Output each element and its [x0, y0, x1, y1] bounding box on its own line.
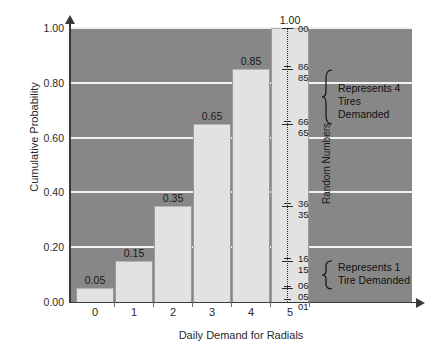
x-tick-label-0: 0 — [75, 306, 115, 318]
bar-value-label-3: 0.65 — [189, 110, 235, 122]
bar-demand-0 — [76, 288, 114, 302]
rn-tick-16 — [284, 258, 291, 259]
y-tick-label-0.20: 0.20 — [22, 241, 64, 253]
callout-represents-1: Represents 1 Tire Demanded — [338, 261, 410, 287]
y-tick-label-1.00: 1.00 — [22, 22, 64, 34]
rn-label-15: 15 — [298, 265, 309, 275]
x-tick-label-1: 1 — [114, 306, 154, 318]
y-axis-title: Cumulative Probability — [28, 42, 40, 232]
x-axis-arrow-icon — [416, 298, 425, 308]
cumulative-probability-chart: 0.05 0.15 0.35 0.65 0.85 1.00 00 86 85 6… — [0, 0, 437, 354]
rn-tick-35 — [282, 206, 293, 207]
gridline-1.00 — [70, 27, 412, 29]
rn-tick-85 — [282, 69, 293, 70]
rn-label-06: 06 — [298, 281, 309, 291]
y-axis-line — [69, 22, 71, 303]
x-axis-line — [69, 302, 418, 304]
brace-represents-4 — [322, 69, 334, 125]
rn-tick-00 — [282, 28, 293, 29]
rn-tick-36 — [284, 203, 291, 204]
rn-label-36: 36 — [298, 199, 309, 209]
x-axis-title: Daily Demand for Radials — [70, 329, 412, 341]
rn-label-85: 85 — [298, 73, 309, 83]
brace-represents-1 — [322, 260, 334, 290]
x-tick-label-2: 2 — [153, 306, 193, 318]
rn-tick-06 — [284, 286, 291, 287]
bar-demand-1 — [115, 261, 153, 302]
rn-label-00: 00 — [298, 24, 309, 34]
bar-demand-4 — [232, 69, 270, 302]
rn-tick-66 — [284, 121, 291, 122]
callout-represents-4: Represents 4 Tires Demanded — [338, 82, 412, 121]
rn-label-86: 86 — [298, 62, 309, 72]
plot-area: 0.05 0.15 0.35 0.65 0.85 1.00 00 86 85 6… — [70, 28, 412, 302]
rn-tick-86 — [284, 66, 291, 67]
rn-label-66: 66 — [298, 117, 309, 127]
bar-value-label-0: 0.05 — [72, 274, 118, 286]
rn-label-35: 35 — [298, 210, 309, 220]
rn-tick-15 — [282, 261, 293, 262]
rn-tick-65 — [282, 124, 293, 125]
bar-value-label-4: 0.85 — [228, 55, 274, 67]
y-tick-label-0.00: 0.00 — [22, 296, 64, 308]
bar-value-label-2: 0.35 — [150, 192, 196, 204]
x-tick-label-5: 5 — [270, 306, 310, 318]
bar-value-label-1: 0.15 — [111, 247, 157, 259]
rn-label-65: 65 — [298, 128, 309, 138]
y-axis-arrow-icon — [65, 15, 75, 24]
x-tick-label-4: 4 — [231, 306, 271, 318]
rn-label-16: 16 — [298, 254, 309, 264]
bar-demand-3 — [193, 124, 231, 302]
bar-demand-2 — [154, 206, 192, 302]
rn-tick-01 — [284, 299, 291, 300]
rn-tick-05 — [282, 288, 293, 289]
x-tick-label-3: 3 — [192, 306, 232, 318]
